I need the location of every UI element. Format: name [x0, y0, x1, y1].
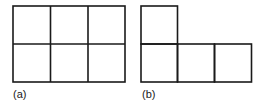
shape-b-bottom-square-1	[141, 44, 178, 82]
figure-b-shape	[141, 6, 252, 82]
figure-canvas	[0, 0, 261, 111]
shape-b-bottom-square-2	[178, 44, 215, 82]
shape-b-top-square	[141, 6, 178, 44]
figure-a-grid	[13, 6, 125, 82]
figure-b-label: (b)	[142, 89, 155, 100]
figure-a-label: (a)	[13, 89, 26, 100]
shape-b-bottom-square-3	[215, 44, 252, 82]
